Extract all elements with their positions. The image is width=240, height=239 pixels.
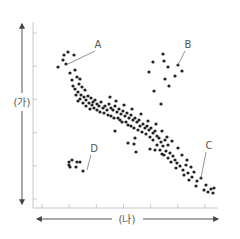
annotation-label-d: D [90,143,98,154]
scatter-points [56,50,215,194]
data-point-main-trend [68,71,71,74]
data-point-main-trend [108,95,111,98]
data-point-main-trend [129,113,132,116]
data-point-main-trend [120,120,123,123]
annotation-label-c: C [206,140,213,151]
data-point-main-trend [103,104,106,107]
data-point-main-trend [78,77,81,80]
data-point-main-trend [154,122,157,125]
data-point-main-trend [140,130,143,133]
data-point-cluster-B [159,102,162,105]
data-point-main-trend [165,135,168,138]
data-point-main-trend [129,124,132,127]
y-axis-label: (가) [14,97,31,108]
data-point-main-trend [166,156,169,159]
data-point-main-trend [125,111,128,114]
data-point-main-trend [88,107,91,110]
data-point-main-trend [145,124,148,127]
data-point-main-trend [117,107,120,110]
data-point-cluster-B [162,59,165,62]
data-point-main-trend [174,166,177,169]
data-point-main-trend [114,99,117,102]
x-axis-ticks [42,204,205,208]
data-point-main-trend [97,104,100,107]
data-point-main-trend [81,101,84,104]
data-point-main-trend [158,148,161,151]
data-point-main-trend [75,75,78,78]
data-point-main-trend [133,116,136,119]
data-point-main-trend [148,135,151,138]
data-point-main-trend [178,164,181,167]
data-point-main-trend [186,171,189,174]
data-point-main-trend [187,178,190,181]
data-point-main-trend [70,78,73,81]
data-point-scattered-outliers [134,150,137,153]
data-point-main-trend [173,158,176,161]
annotation-leader-c [201,152,206,178]
data-point-main-trend [182,173,185,176]
data-point-scattered-outliers [132,142,135,145]
data-point-main-trend [79,93,82,96]
data-point-main-trend [102,111,105,114]
data-point-main-trend [119,112,122,115]
data-point-cluster-B [161,52,164,55]
data-point-main-trend [195,179,198,182]
data-point-main-trend [161,144,164,147]
data-point-main-trend [98,110,101,113]
data-point-main-trend [127,116,130,119]
data-point-cluster-D [75,160,78,163]
data-point-main-trend [146,119,149,122]
data-point-main-trend [66,50,69,53]
data-point-main-trend [189,165,192,168]
data-point-scattered-outliers [126,141,129,144]
data-point-main-trend [130,107,133,110]
data-point-main-trend [74,93,77,96]
data-point-main-trend [73,68,76,71]
data-point-main-trend [95,108,98,111]
data-point-main-trend [72,53,75,56]
data-point-main-trend [141,122,144,125]
data-point-main-trend [90,103,93,106]
data-point-main-trend [155,143,158,146]
data-point-main-trend [84,98,87,101]
data-point-cluster-B [180,69,183,72]
data-point-main-trend [113,104,116,107]
x-axis-label: (나) [119,214,136,225]
data-point-main-trend [77,82,80,85]
data-point-main-trend [123,114,126,117]
data-point-cluster-D [78,160,81,163]
data-point-cluster-D [74,165,77,168]
data-point-scattered-outliers [153,148,156,151]
data-point-cluster-D [67,160,70,163]
data-point-main-trend [132,126,135,129]
cluster-annotations: ABCD [66,39,213,178]
data-point-cluster-B [163,77,166,80]
data-point-main-trend [73,87,76,90]
data-point-main-trend [181,168,184,171]
data-point-cluster-B [147,70,150,73]
data-point-main-trend [144,132,147,135]
data-point-main-trend [105,108,108,111]
data-point-main-trend [163,138,166,141]
data-point-main-trend [61,58,64,61]
data-point-main-trend [64,62,67,65]
annotation-leader-a [66,51,95,65]
data-point-main-trend [136,128,139,131]
data-point-main-trend [192,170,195,173]
data-point-main-trend [206,190,209,193]
data-point-cluster-B [167,84,170,87]
data-point-main-trend [93,98,96,101]
data-point-main-trend [71,84,74,87]
data-point-main-trend [115,110,118,113]
data-point-main-trend [87,101,90,104]
data-point-main-trend [153,129,156,132]
data-point-cluster-D [68,165,71,168]
data-point-main-trend [168,151,171,154]
data-point-main-trend [112,116,115,119]
data-point-main-trend [138,124,141,127]
data-point-scattered-outliers [113,129,116,132]
data-point-main-trend [56,65,59,68]
data-point-main-trend [194,184,197,187]
data-point-main-trend [99,100,102,103]
data-point-main-trend [89,96,92,99]
